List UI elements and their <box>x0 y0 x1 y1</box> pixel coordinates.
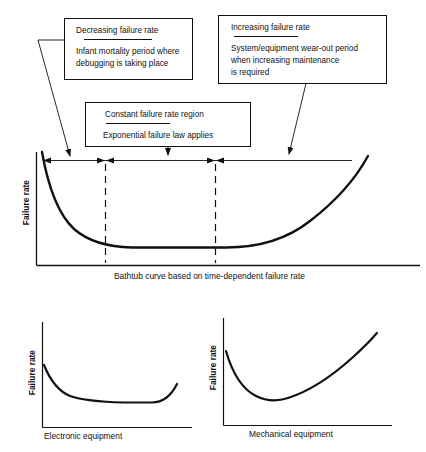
callout-heading-constant-rate: Constant failure rate region <box>105 110 204 120</box>
electronic-chart-caption: Electronic equipment <box>44 432 122 442</box>
main-chart-ylabel: Failure rate <box>22 180 32 225</box>
electronic-chart-ylabel: Failure rate <box>28 350 38 395</box>
mechanical-chart-axes <box>224 318 393 426</box>
mechanical-curve-path <box>226 333 377 400</box>
leader-line-wear-out <box>289 84 306 155</box>
electronic-curve-path <box>44 365 177 403</box>
electronic-chart-axes <box>43 322 193 428</box>
callout-body-wear-out-line-2: when increasing maintenance <box>231 56 339 66</box>
callout-body-infant-mortality-line-2: debugging is taking place <box>76 59 168 69</box>
mechanical-chart-ylabel: Failure rate <box>209 345 219 390</box>
callout-body-infant-mortality-line-1: Infant mortality period where <box>76 47 179 57</box>
callout-body-wear-out-line-1: System/equipment wear-out period <box>231 44 358 54</box>
bathtub-curve-path <box>42 152 368 248</box>
main-chart-caption: Bathtub curve based on time-dependent fa… <box>114 272 305 282</box>
callout-heading-infant-mortality: Decreasing failure rate <box>76 26 158 36</box>
callout-body-constant-rate-line-1: Exponential failure law applies <box>103 131 213 141</box>
callout-body-wear-out-line-3: is required <box>231 68 269 78</box>
mechanical-chart-caption: Mechanical equipment <box>249 430 333 440</box>
callout-heading-wear-out: Increasing failure rate <box>231 23 310 33</box>
